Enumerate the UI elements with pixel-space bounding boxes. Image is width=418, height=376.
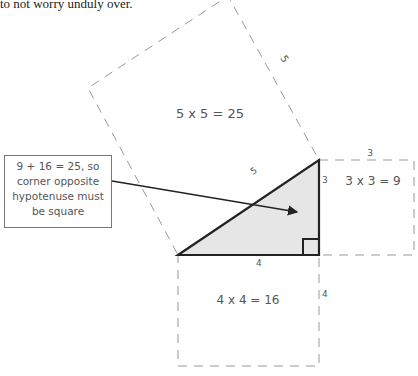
triangle-vertical-label: 3 xyxy=(322,175,328,185)
side3-square-side-label: 3 xyxy=(367,148,373,158)
note-line: hypotenuse must xyxy=(5,189,111,204)
side4-square xyxy=(178,255,319,366)
triangle-hyp-label: 5 xyxy=(249,165,259,176)
note-line: corner opposite xyxy=(5,174,111,189)
hyp-square-side-label: 5 xyxy=(278,53,291,64)
side4-square-side-label: 4 xyxy=(322,289,328,299)
hyp-square-area-label: 5 x 5 = 25 xyxy=(176,106,244,121)
right-triangle xyxy=(178,160,319,255)
note-box: 9 + 16 = 25, so corner opposite hypotenu… xyxy=(4,155,112,228)
side4-square-area-label: 4 x 4 = 16 xyxy=(217,293,280,307)
side3-square-area-label: 3 x 3 = 9 xyxy=(345,174,400,188)
triangle-base-label: 4 xyxy=(256,258,262,268)
note-line: be square xyxy=(5,204,111,219)
note-line: 9 + 16 = 25, so xyxy=(5,159,111,174)
